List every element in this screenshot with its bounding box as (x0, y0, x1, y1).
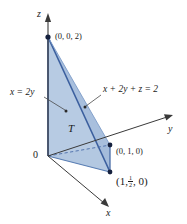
y-axis-arrowhead (164, 114, 173, 120)
vertex-dot-apex (45, 34, 50, 39)
fraction-denominator: 2 (128, 181, 132, 188)
x-axis-arrowhead (101, 198, 109, 207)
vertex-label-xy-fraction: 12 (128, 175, 132, 189)
region-label-T: T (68, 123, 74, 134)
vertex-label-y-intercept: (0, 1, 0) (116, 147, 143, 156)
y-axis-label: y (168, 124, 172, 134)
leader-dot-plane (84, 106, 87, 109)
origin-label: 0 (33, 150, 38, 160)
vertex-label-xy-point: (1,12, 0) (116, 175, 148, 189)
leader-dot-side-plane (65, 110, 68, 113)
figure-container: z y x 0 (0, 0, 2) (0, 1, 0) (1,12, 0) x … (0, 0, 187, 224)
vertex-label-xy-suffix: , 0) (133, 175, 148, 187)
vertex-dot-xy-point (108, 170, 113, 175)
side-plane-equation-label: x = 2y (10, 88, 34, 98)
vertex-dot-y-intercept (108, 143, 113, 148)
coordinate-diagram (0, 0, 187, 224)
x-axis-label: x (106, 208, 110, 218)
leader-line-plane (86, 95, 101, 106)
z-axis-arrowhead (45, 13, 51, 22)
vertex-label-xy-prefix: (1, (116, 175, 128, 187)
vertex-label-apex: (0, 0, 2) (55, 32, 82, 41)
z-axis-label: z (37, 9, 41, 19)
plane-equation-label: x + 2y + z = 2 (103, 85, 158, 95)
